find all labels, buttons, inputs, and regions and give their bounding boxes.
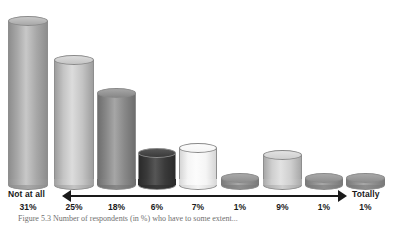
cylinder-chart: Not at all Totally 31%25%18%6%7%1%9%1%1%… bbox=[0, 0, 401, 225]
cylinder-top bbox=[179, 143, 217, 153]
percentage-label: 6% bbox=[138, 202, 176, 212]
cylinder-bar bbox=[8, 16, 48, 190]
percentage-label: 1% bbox=[346, 202, 385, 212]
percentage-label: 31% bbox=[8, 202, 48, 212]
percentage-label: 1% bbox=[305, 202, 343, 212]
figure-caption: Figure 5.3 Number of respondents (in %) … bbox=[18, 214, 398, 223]
cylinder-bar bbox=[138, 148, 176, 190]
percentage-label: 9% bbox=[263, 202, 302, 212]
cylinder-top bbox=[263, 150, 302, 160]
cylinder-bar bbox=[97, 88, 136, 190]
scale-high-label: Totally bbox=[352, 189, 379, 199]
cylinder-bar bbox=[221, 173, 259, 190]
cylinder-top bbox=[54, 55, 94, 65]
percentage-label: 25% bbox=[54, 202, 94, 212]
cylinder-bar bbox=[54, 55, 94, 190]
cylinder-top bbox=[138, 148, 176, 158]
cylinder-top bbox=[346, 173, 385, 183]
cylinder-series bbox=[0, 0, 401, 190]
cylinder-bar bbox=[305, 173, 343, 190]
cylinder-bar bbox=[179, 143, 217, 190]
arrow-line bbox=[70, 195, 339, 197]
cylinder-bar bbox=[263, 150, 302, 190]
percentage-label: 18% bbox=[97, 202, 136, 212]
scale-low-label: Not at all bbox=[8, 189, 45, 199]
cylinder-top bbox=[8, 16, 48, 26]
cylinder-top bbox=[221, 173, 259, 183]
arrow-head-right-icon bbox=[338, 190, 347, 202]
cylinder-body-lower bbox=[54, 179, 94, 185]
cylinder-body-lower bbox=[8, 179, 48, 185]
cylinder-body-lower bbox=[179, 179, 217, 185]
cylinder-body bbox=[97, 93, 136, 185]
cylinder-body-lower bbox=[263, 179, 302, 185]
cylinder-bar bbox=[346, 173, 385, 190]
scale-arrow bbox=[62, 190, 347, 202]
cylinder-body-lower bbox=[97, 179, 136, 185]
cylinder-body bbox=[8, 21, 48, 185]
cylinder-top bbox=[97, 88, 136, 98]
cylinder-top bbox=[305, 173, 343, 183]
percentage-label: 1% bbox=[221, 202, 259, 212]
cylinder-body-lower bbox=[138, 179, 176, 185]
cylinder-body bbox=[54, 60, 94, 185]
percentage-label: 7% bbox=[179, 202, 217, 212]
